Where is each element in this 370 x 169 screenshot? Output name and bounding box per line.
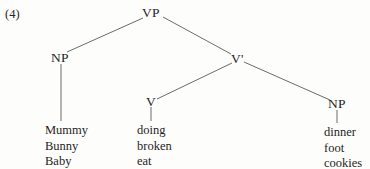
node-vp: VP: [142, 6, 160, 19]
word-list-subject: Mummy Bunny Baby: [45, 123, 88, 169]
word-item: dinner: [324, 125, 362, 141]
node-np-subject: NP: [51, 51, 69, 64]
word-item: eat: [137, 154, 172, 169]
example-number: (4): [5, 8, 20, 21]
word-item: broken: [137, 139, 172, 155]
branch-vp-to-np-subject: [67, 18, 143, 52]
word-list-verb: doing broken eat: [137, 123, 172, 169]
word-item: foot: [324, 141, 362, 157]
branch-vbar-to-np-object: [244, 62, 330, 100]
word-item: Baby: [45, 154, 88, 169]
word-item: Bunny: [45, 139, 88, 155]
tree-diagram-figure: (4) VP NP V' V NP Mummy Bunny Baby doing…: [0, 0, 370, 169]
word-item: cookies: [324, 156, 362, 169]
node-np-object: NP: [328, 97, 346, 110]
node-vbar: V': [231, 52, 244, 65]
branch-vbar-to-v: [157, 63, 232, 99]
word-item: doing: [137, 123, 172, 139]
word-list-object: dinner foot cookies: [324, 125, 362, 169]
branch-vp-to-vbar: [163, 17, 231, 54]
word-item: Mummy: [45, 123, 88, 139]
node-v: V: [146, 95, 156, 108]
